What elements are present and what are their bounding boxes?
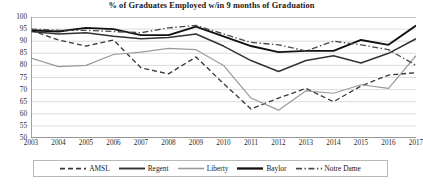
chart-container: % of Graduates Employed w/in 9 months of… [0, 0, 423, 185]
y-tick-label: 70 [20, 86, 27, 94]
chart-title: % of Graduates Employed w/in 9 months of… [0, 1, 423, 10]
series-lines [31, 25, 416, 110]
legend-label: Baylor [266, 164, 286, 173]
y-tick-label: 95 [20, 25, 27, 33]
x-tick-label: 2014 [326, 139, 340, 147]
legend-label: Notre Dame [325, 164, 361, 173]
x-tick-label: 2004 [51, 139, 65, 147]
chart-legend: AMSLRegentLibertyBaylorNotre Dame [33, 160, 388, 177]
y-axis-tick-labels: 10095908580757065605550 [0, 17, 29, 138]
legend-item-liberty[interactable]: Liberty [178, 164, 229, 173]
x-tick-label: 2005 [79, 139, 93, 147]
y-tick-label: 65 [20, 98, 27, 106]
x-tick-label: 2009 [189, 139, 203, 147]
gridlines [31, 17, 416, 138]
legend-item-baylor[interactable]: Baylor [237, 164, 286, 173]
x-tick-label: 2011 [244, 139, 258, 147]
legend-swatch-amsl-icon [60, 164, 86, 173]
y-tick-label: 55 [20, 122, 27, 130]
x-tick-label: 2007 [134, 139, 148, 147]
series-line-baylor [31, 25, 416, 52]
legend-swatch-liberty-icon [178, 164, 204, 173]
y-tick-label: 75 [20, 74, 27, 82]
x-axis-tick-labels: 2003200420052006200720082009201020112012… [31, 139, 416, 151]
legend-swatch-baylor-icon [237, 164, 263, 173]
x-tick-label: 2015 [354, 139, 368, 147]
series-line-liberty [31, 48, 416, 110]
legend-item-amsl[interactable]: AMSL [60, 164, 110, 173]
x-tick-label: 2016 [381, 139, 395, 147]
x-tick-label: 2008 [161, 139, 175, 147]
chart-plot-svg [31, 17, 416, 138]
series-line-amsl [31, 30, 416, 109]
y-tick-label: 100 [16, 13, 27, 21]
x-tick-label: 2003 [24, 139, 38, 147]
x-tick-label: 2013 [299, 139, 313, 147]
x-tick-label: 2012 [271, 139, 285, 147]
x-tick-label: 2010 [216, 139, 230, 147]
legend-label: AMSL [89, 164, 110, 173]
y-tick-label: 90 [20, 37, 27, 45]
x-tick-label: 2017 [409, 139, 423, 147]
plot-area [31, 17, 416, 138]
y-tick-label: 80 [20, 61, 27, 69]
y-tick-label: 60 [20, 110, 27, 118]
x-tick-label: 2006 [106, 139, 120, 147]
legend-swatch-notre-dame-icon [296, 164, 322, 173]
legend-swatch-regent-icon [119, 164, 145, 173]
legend-item-notre-dame[interactable]: Notre Dame [296, 164, 361, 173]
legend-label: Regent [148, 164, 169, 173]
legend-label: Liberty [207, 164, 229, 173]
legend-item-regent[interactable]: Regent [119, 164, 169, 173]
y-tick-label: 85 [20, 49, 27, 57]
